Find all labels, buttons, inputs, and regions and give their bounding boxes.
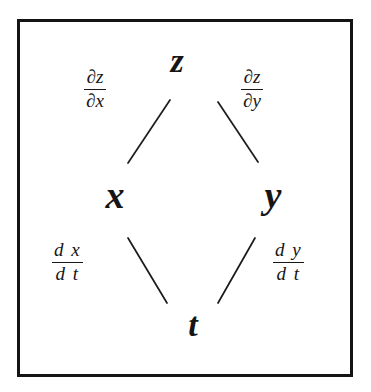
edge-z-to-x	[128, 100, 170, 163]
node-y: y	[246, 176, 300, 214]
edge-label-dy-dt: d y d t	[273, 240, 304, 284]
node-x: x	[88, 176, 142, 214]
edge-label-dy-dt-denominator: d t	[273, 262, 304, 285]
edge-label-dx-dt-numerator: d x	[52, 240, 83, 262]
edge-label-dz-dy-numerator: ∂z	[241, 67, 263, 89]
edge-label-dz-dy-denominator: ∂y	[241, 89, 263, 112]
edge-y-to-t	[218, 238, 255, 303]
edge-x-to-t	[128, 238, 167, 303]
edge-label-dz-dy: ∂z ∂y	[241, 67, 263, 111]
chain-rule-diagram: z x y t ∂z ∂x ∂z ∂y d x d t d y d t	[0, 0, 371, 392]
edge-label-dx-dt-denominator: d t	[52, 262, 83, 285]
node-t: t	[166, 308, 220, 342]
edge-label-dx-dt: d x d t	[52, 240, 83, 284]
node-z: z	[150, 44, 204, 78]
edge-label-dz-dx: ∂z ∂x	[84, 67, 106, 111]
edge-label-dz-dx-numerator: ∂z	[84, 67, 106, 89]
edge-label-dy-dt-numerator: d y	[273, 240, 304, 262]
edge-label-dz-dx-denominator: ∂x	[84, 89, 106, 112]
